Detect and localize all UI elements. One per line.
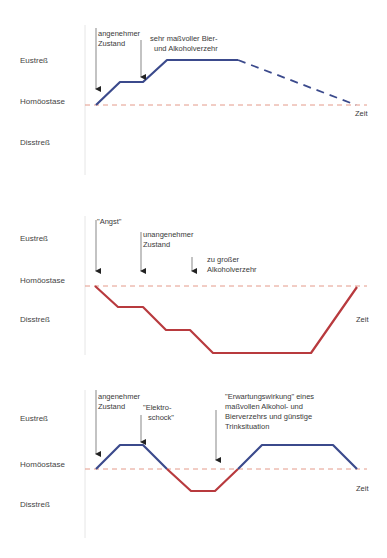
label-distress: Disstreß (20, 138, 50, 147)
annotation-pleasant-state: angenehmer Zustand (98, 392, 140, 412)
annotation-pleasant-state: angenehmer Zustand (98, 29, 140, 49)
annotation-fear: "Angst" (97, 217, 122, 227)
eustress-curve-end (238, 445, 357, 469)
distress-dip (167, 469, 238, 491)
label-time: Zeit (356, 315, 369, 324)
distress-curve (95, 286, 357, 353)
annotation-excessive-consumption: zu großer Alkoholverzehr (207, 255, 257, 275)
label-eustress: Eustreß (20, 414, 48, 423)
annotation-unpleasant-state: unangenehmer Zustand (143, 230, 193, 250)
label-time: Zeit (355, 109, 368, 118)
eustress-decline-dashed (238, 60, 356, 105)
eustress-curve (96, 60, 238, 105)
label-time: Zeit (356, 484, 369, 493)
label-homeostasis: Homöostase (20, 276, 65, 285)
label-eustress: Eustreß (20, 234, 48, 243)
panel-2-graphics (85, 216, 367, 355)
label-distress: Disstreß (20, 500, 50, 509)
annotation-electroshock: "Elektro- schock" (143, 403, 174, 423)
label-distress: Disstreß (20, 315, 50, 324)
label-homeostasis: Homöostase (20, 460, 65, 469)
eustress-curve-start (96, 445, 167, 469)
label-homeostasis: Homöostase (20, 97, 65, 106)
annotation-expectation-effect: "Erwartungswirkung" eines maßvollen Alko… (225, 392, 314, 432)
annotation-moderate-consumption: sehr maßvoller Bier- und Alkoholverzehr (150, 34, 218, 54)
label-eustress: Eustreß (20, 56, 48, 65)
